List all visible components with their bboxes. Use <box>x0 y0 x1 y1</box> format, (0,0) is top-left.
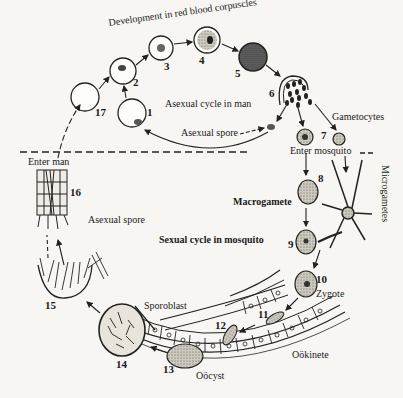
label-enter-mosquito: Enter mosquito <box>290 146 351 156</box>
label-gametocytes: Gametocytes <box>332 112 384 122</box>
stage-number-2: 2 <box>133 77 139 88</box>
stage-number-4: 4 <box>199 55 205 66</box>
label-zygote: Zygote <box>316 289 344 299</box>
stage-number-12: 12 <box>215 320 226 331</box>
microgamete-cell <box>322 160 372 248</box>
stage-number-9: 9 <box>288 239 294 250</box>
label-microgametes: Microgametes <box>380 165 390 222</box>
stage-15-spore-release <box>38 252 108 298</box>
stage-number-14: 14 <box>116 359 127 370</box>
stage-number-1: 1 <box>147 107 153 118</box>
label-macrogamete: Macrogamete <box>233 197 292 207</box>
stage-number-15: 15 <box>45 300 56 311</box>
stage-number-10: 10 <box>316 274 327 285</box>
stage-16-salivary-gland <box>37 170 68 229</box>
label-asexual-cycle: Asexual cycle in man <box>165 99 251 109</box>
stage-number-6: 6 <box>269 88 275 99</box>
stage-number-8: 8 <box>318 173 324 184</box>
stage-number-11: 11 <box>258 309 268 320</box>
label-asexual-spore-top: Asexual spore <box>181 128 238 138</box>
stage-8-macrogamete <box>298 180 318 204</box>
stage-number-3: 3 <box>164 61 170 72</box>
stage-number-13: 13 <box>163 364 174 375</box>
label-enter-man: Enter man <box>28 157 69 167</box>
stage-1-cell <box>118 99 146 127</box>
stage-9-cell <box>296 230 316 254</box>
stage-5-cell <box>239 43 267 71</box>
stage-14-sporoblast <box>99 304 155 356</box>
asexual-spore-cell <box>267 124 275 130</box>
label-asexual-spore-bottom: Asexual spore <box>88 215 145 225</box>
stage-number-5: 5 <box>235 68 241 79</box>
label-ookinete: Oökinete <box>292 350 329 360</box>
stage-4-cell <box>194 27 220 53</box>
stage-number-7: 7 <box>321 130 327 141</box>
stage-6-rupture <box>279 76 312 108</box>
stage-3-cell <box>149 36 173 60</box>
stage-10-zygote <box>295 271 317 297</box>
label-sexual-cycle: Sexual cycle in mosquito <box>159 235 264 245</box>
label-oocyst: Oöcyst <box>196 371 224 381</box>
label-sporoblast: Sporoblast <box>144 301 187 311</box>
stage-number-17: 17 <box>95 107 106 118</box>
stage-number-16: 16 <box>70 187 81 198</box>
